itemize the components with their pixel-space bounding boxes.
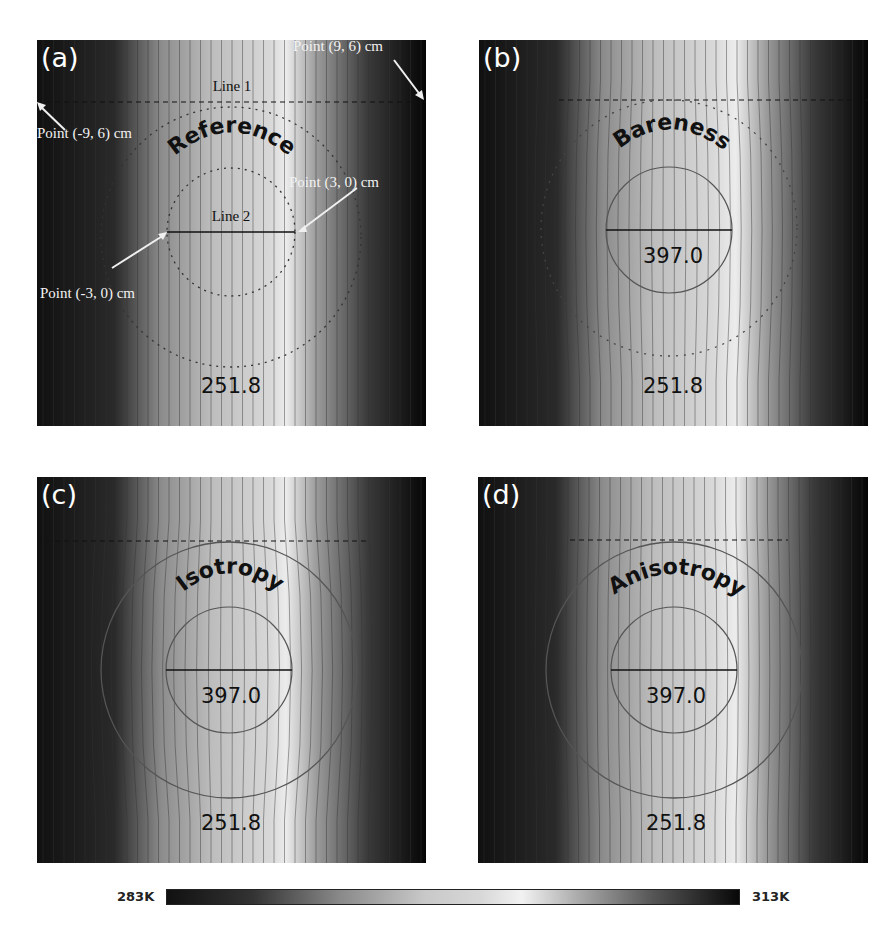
value-inner-b: 397.0: [643, 244, 703, 268]
panel-label-c: (c): [41, 479, 77, 510]
value-inner-d: 397.0: [646, 684, 706, 708]
panel-label-b: (b): [483, 42, 521, 73]
panel-label-d: (d): [482, 479, 520, 510]
colorbar-min-label: 283K: [117, 889, 154, 904]
temperature-field-b: Bareness: [479, 40, 868, 426]
value-outer-c: 251.8: [201, 811, 261, 835]
value-outer-b: 251.8: [643, 374, 703, 398]
panel-label-a: (a): [41, 42, 79, 73]
temperature-field-a: Reference: [37, 40, 426, 426]
value-inner-c: 397.0: [201, 684, 261, 708]
colorbar: [166, 889, 740, 905]
annotation-point-3-0: Point (3, 0) cm: [289, 174, 379, 191]
value-outer-a: 251.8: [201, 374, 261, 398]
colorbar-max-label: 313K: [752, 889, 789, 904]
temperature-field-c: Isotropy: [37, 477, 426, 863]
annotation-point-m3-0: Point (-3, 0) cm: [40, 285, 135, 302]
annotation-line-1: Line 1: [213, 78, 252, 95]
annotation-point-m9-6: Point (-9, 6) cm: [37, 125, 132, 142]
panel-b: Bareness (b) 397.0 251.8: [479, 40, 868, 426]
temperature-field-d: Anisotropy: [478, 477, 868, 863]
annotation-point-9-6: Point (9, 6) cm: [293, 40, 383, 55]
panel-a: Reference (a) Point (9, 6) cm Line 1 Poi…: [37, 40, 426, 426]
annotation-line-2: Line 2: [212, 208, 251, 225]
value-outer-d: 251.8: [646, 811, 706, 835]
panel-d: Anisotropy (d) 397.0 251.8: [478, 477, 868, 863]
panel-c: Isotropy (c) 397.0 251.8: [37, 477, 426, 863]
